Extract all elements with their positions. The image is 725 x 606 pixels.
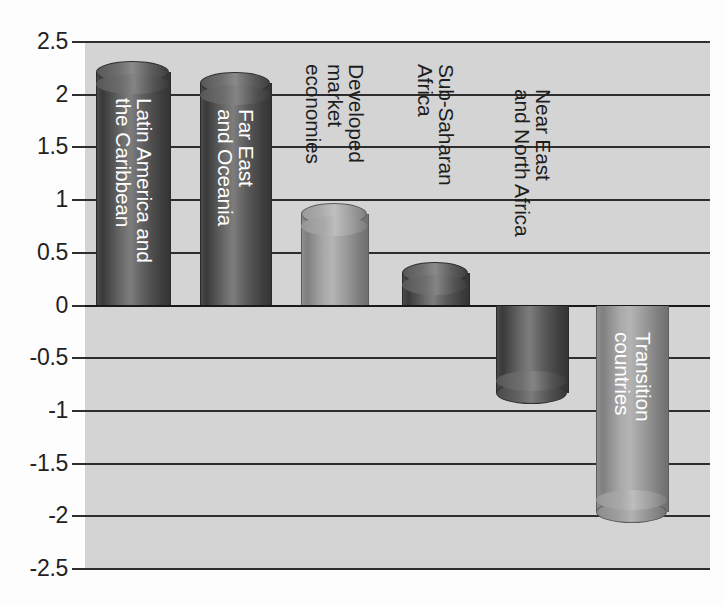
bar-label-line: and North Africa [511,89,532,236]
bar-cap-highlight [496,371,567,391]
y-axis-tick-mark [72,41,85,43]
bar-label-line: Far East [236,109,257,226]
y-axis-tick-label: 2.5 [0,30,68,53]
bar-cap-highlight [96,74,169,94]
gridline [85,252,710,254]
y-axis-tick-label: -0.5 [0,346,68,369]
y-axis-tick-label: 2 [0,83,68,106]
y-axis-tick-label: 0 [0,294,68,317]
bar-label-line: countries [611,332,632,421]
y-axis-tick-mark [72,252,85,254]
y-axis-tick-label: -2 [0,504,68,527]
bar-label-line: economies [303,64,324,164]
bar-label-line: Developed [346,64,367,164]
bar-cap-highlight [402,275,468,295]
y-axis-tick-mark [72,568,85,570]
bar-label: Far Eastand Oceania [214,109,257,226]
y-axis-tick-mark [72,94,85,96]
bar[interactable] [301,214,367,306]
plot-area: Latin America andthe CaribbeanFar Eastan… [85,42,710,569]
bar-label-line: Near East [532,89,553,236]
bar-cap-highlight [596,490,667,510]
bar-label-line: Transition [632,332,653,421]
y-axis-tick-label: -2.5 [0,557,68,580]
bar-label: Sub-SaharanAfrica [414,64,457,186]
y-axis-tick-label: 1.5 [0,135,68,158]
gridline [85,41,710,43]
bar-label-line: Africa [414,64,435,186]
bar-cap-highlight [301,216,367,236]
bar-cap-highlight [200,85,270,105]
y-axis-tick-mark [72,146,85,148]
gridline [85,199,710,201]
bar[interactable] [496,306,567,393]
bar-label-line: Sub-Saharan [436,64,457,186]
bar-label-line: Latin America and [133,98,154,263]
y-axis-tick-label: -1 [0,399,68,422]
y-axis-tick-mark [72,199,85,201]
gridline [85,94,710,96]
y-axis-tick-mark [72,463,85,465]
gridline [85,146,710,148]
bar-label: Latin America andthe Caribbean [112,98,155,263]
gridline [85,568,710,570]
y-axis-tick-mark [72,410,85,412]
bar-chart: 2.521.510.50-0.5-1-1.5-2-2.5 Latin Ameri… [0,0,725,606]
y-axis-tick-mark [72,305,85,307]
y-axis-tick-label: -1.5 [0,452,68,475]
bar[interactable] [402,273,468,306]
bar-label: Near Eastand North Africa [511,89,554,236]
y-axis-tick-label: 0.5 [0,241,68,264]
y-axis-tick-label: 1 [0,188,68,211]
bar-label: Developedmarketeconomies [303,64,367,164]
y-axis-tick-mark [72,357,85,359]
bar-label-line: market [324,64,345,164]
bar-label: Transitioncountries [611,332,654,421]
bar-label-line: and Oceania [214,109,235,226]
y-axis-tick-mark [72,515,85,517]
bar-label-line: the Caribbean [112,98,133,263]
